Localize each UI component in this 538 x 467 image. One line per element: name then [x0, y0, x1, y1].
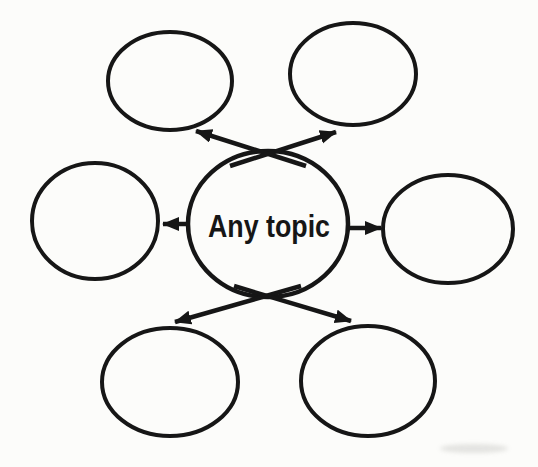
- center-node-label: Any topic: [208, 208, 330, 244]
- node-circle-top-left: [108, 32, 232, 130]
- connector-arrow-bottom-right: [234, 286, 351, 321]
- node-circle-right: [383, 175, 513, 283]
- node-circle-left: [32, 163, 158, 279]
- scan-artifact: [440, 444, 508, 453]
- node-circle-bottom-right: [301, 326, 435, 436]
- node-circle-top-right: [290, 23, 416, 125]
- node-circle-bottom-left: [102, 328, 238, 436]
- spider-map-diagram: Any topic: [0, 0, 538, 467]
- scanned-page: Any topic: [0, 0, 538, 467]
